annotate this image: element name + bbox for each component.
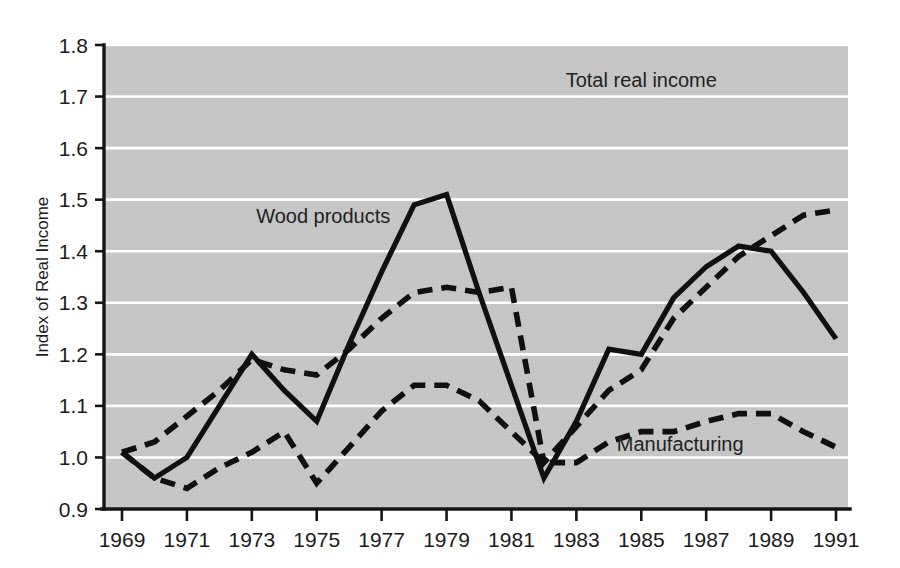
- series-label-total-real-income: Total real income: [566, 69, 717, 91]
- y-tick-label: 1.5: [59, 188, 88, 211]
- y-tick-label: 1.6: [59, 137, 88, 160]
- y-tick-label: 1.4: [59, 240, 89, 263]
- chart-figure: 0.91.01.11.21.31.41.51.61.71.8 196919711…: [0, 0, 900, 568]
- series-label-wood-products: Wood products: [256, 205, 390, 227]
- y-tick-label: 1.2: [59, 343, 88, 366]
- x-tick-label: 1979: [423, 528, 470, 551]
- y-tick-label: 1.1: [59, 394, 88, 417]
- x-tick-label: 1971: [164, 528, 211, 551]
- x-tick-label: 1985: [618, 528, 665, 551]
- x-tick-label: 1977: [358, 528, 405, 551]
- y-tick-label: 1.0: [59, 446, 88, 469]
- x-tick-label: 1975: [293, 528, 340, 551]
- x-tick-label: 1983: [553, 528, 600, 551]
- y-tick-label: 1.8: [59, 34, 88, 57]
- y-axis-title: Index of Real Income: [33, 197, 52, 358]
- x-tick-label: 1987: [683, 528, 730, 551]
- series-label-manufacturing: Manufacturing: [617, 433, 744, 455]
- y-tick-label: 1.7: [59, 85, 88, 108]
- y-tick-label: 1.3: [59, 291, 88, 314]
- x-tick-label: 1969: [99, 528, 146, 551]
- x-tick-label: 1991: [813, 528, 860, 551]
- x-tick-label: 1981: [488, 528, 535, 551]
- x-tick-label: 1989: [748, 528, 795, 551]
- y-tick-label: 0.9: [59, 498, 88, 521]
- x-tick-label: 1973: [228, 528, 275, 551]
